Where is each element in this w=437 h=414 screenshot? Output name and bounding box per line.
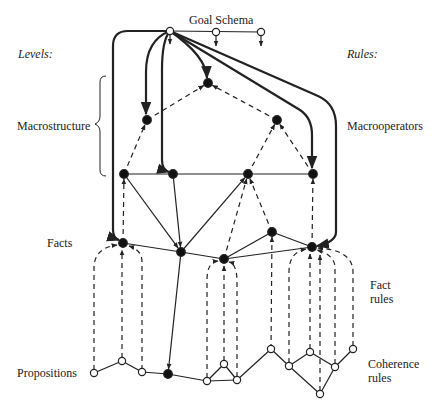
node-f2 — [220, 255, 229, 264]
edge-f0-l0 — [123, 179, 124, 243]
node-f3 — [268, 228, 277, 237]
node-g1 — [212, 28, 219, 35]
node-m1 — [143, 116, 152, 125]
node-l0 — [120, 170, 129, 179]
rules-heading: Rules: — [347, 47, 378, 61]
node-p12 — [316, 390, 323, 397]
fact-rules-label-2: rules — [370, 292, 393, 306]
edge-f3-l2 — [250, 179, 272, 232]
diagram-canvas — [0, 0, 437, 414]
fact-rules-label-1: Fact — [370, 278, 391, 292]
edge-f1-l2 — [181, 178, 245, 252]
edge-f2-f4 — [224, 247, 312, 259]
node-m2 — [273, 116, 282, 125]
edge-f2-f3 — [224, 232, 272, 259]
node-p2 — [138, 368, 145, 375]
coherence-rules-label-2: rules — [368, 371, 391, 385]
edge-f2-l2 — [224, 179, 247, 259]
edge-l2-m2 — [248, 124, 275, 174]
edge-f3-f4 — [272, 232, 312, 247]
macrostructure-brace — [95, 76, 106, 176]
edge-l0-m1 — [124, 125, 145, 174]
node-g0 — [166, 27, 173, 34]
edge-f4-l3 — [312, 179, 313, 247]
node-g2 — [257, 28, 264, 35]
node-p3 — [164, 370, 173, 379]
node-p11 — [349, 345, 356, 352]
edge-p12-p10 — [320, 367, 335, 394]
edge-f1-p3 — [169, 252, 181, 369]
node-f0 — [119, 239, 128, 248]
macrooperators-label: Macrooperators — [347, 119, 423, 133]
node-p9 — [306, 348, 313, 355]
node-l2 — [244, 170, 253, 179]
edge-p6-p7 — [237, 349, 271, 380]
node-l1 — [169, 170, 178, 179]
edge-p4-p6 — [207, 380, 237, 381]
edge-m1-m0 — [147, 86, 204, 120]
coherence-rules-label-1: Coherence — [368, 357, 419, 371]
node-p0 — [90, 369, 97, 376]
edge-l1-f1 — [173, 174, 180, 247]
node-p4 — [203, 377, 210, 384]
node-p5 — [220, 360, 227, 367]
dashed-edges — [123, 85, 313, 349]
node-f1 — [177, 248, 186, 257]
node-l3 — [309, 170, 318, 179]
edge-f1-f2 — [181, 252, 224, 259]
propositions-label: Propositions — [17, 366, 77, 380]
node-m0 — [204, 79, 213, 88]
node-p1 — [118, 357, 125, 364]
goal-schema-arrows — [113, 31, 336, 246]
node-f4 — [308, 243, 317, 252]
edge-l0-f1 — [124, 174, 178, 248]
macrostructure-label: Macrostructure — [17, 119, 90, 133]
edge-p3-p4 — [168, 374, 207, 381]
node-p6 — [233, 376, 240, 383]
edge-p7-f3 — [271, 237, 272, 349]
node-p10 — [331, 363, 338, 370]
edge-p9-p10 — [310, 352, 335, 367]
goal-schema-label: Goal Schema — [189, 13, 253, 27]
edge-p8-p12 — [289, 366, 320, 394]
fact-rule-arcs — [94, 245, 353, 391]
node-p7 — [267, 345, 274, 352]
facts-label: Facts — [47, 236, 72, 250]
levels-heading: Levels: — [18, 47, 53, 61]
node-p8 — [285, 362, 292, 369]
edge-p0-p1 — [94, 361, 122, 373]
edge-l3-m2 — [280, 124, 313, 174]
